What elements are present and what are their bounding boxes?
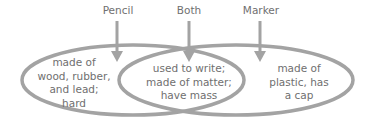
pencil-label: Pencil: [100, 4, 136, 16]
pencil-only-text: made of wood, rubber, and lead; hard: [34, 56, 114, 110]
marker-arrow: [254, 21, 266, 62]
both-arrow: [183, 21, 195, 62]
both-text: used to write; made of matter; have mass: [141, 62, 237, 103]
both-label: Both: [173, 4, 205, 16]
marker-only-text: made of plastic, has a cap: [262, 62, 336, 103]
marker-label: Marker: [240, 4, 282, 16]
